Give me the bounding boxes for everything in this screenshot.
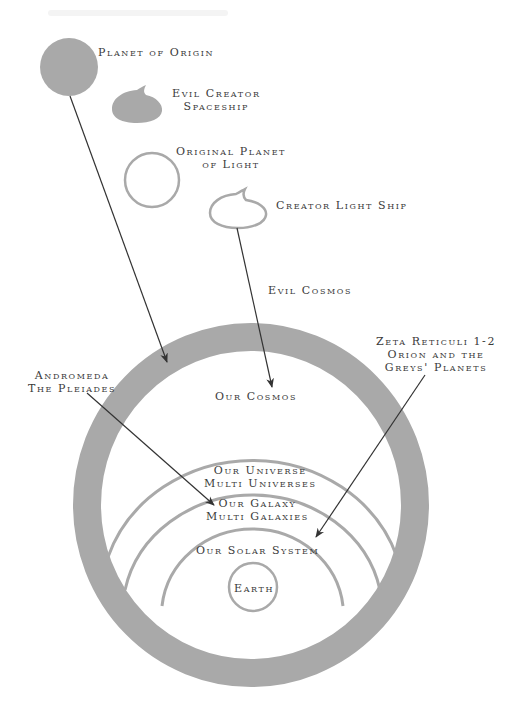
label-evil-creator-spaceship: Evil Creator Spaceship [172,87,261,113]
label-our-galaxy: Our Galaxy Multi Galaxies [206,497,309,523]
cosmology-diagram: Planet of Origin Evil Creator Spaceship … [0,0,509,705]
label-evil-cosmos: Evil Cosmos [268,284,352,297]
label-andromeda: Andromeda The Pleiades [28,369,116,395]
label-zeta-reticuli: Zeta Reticuli 1-2 Orion and the Greys' P… [376,335,496,374]
original-planet-of-light-shape [125,153,179,207]
label-our-cosmos: Our Cosmos [215,390,297,403]
label-planet-of-origin: Planet of Origin [98,46,214,59]
arrow-origin-to-ring [70,96,167,362]
label-creator-light-ship: Creator Light Ship [276,199,408,212]
label-our-solar-system: Our Solar System [196,544,319,557]
arrow-lightship-to-cosmos [237,228,272,387]
label-our-universe: Our Universe Multi Universes [204,464,317,490]
evil-spaceship-shape [112,85,162,123]
label-earth: Earth [234,582,274,595]
label-original-planet-of-light: Original Planet of Light [176,145,286,171]
planet-of-origin-shape [40,38,98,96]
creator-light-ship-shape [210,189,266,228]
